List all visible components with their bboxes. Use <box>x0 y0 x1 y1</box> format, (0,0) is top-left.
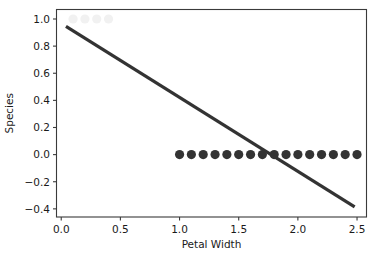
x-tick-label: 2.0 <box>290 223 307 235</box>
x-tick-label: 0.5 <box>112 223 129 235</box>
data-point-marker <box>352 150 361 159</box>
data-point-marker <box>187 150 196 159</box>
x-axis-ticks: 0.00.51.01.52.02.5 <box>53 217 366 235</box>
y-tick-label: 0.4 <box>33 94 50 106</box>
y-tick-label: 0.6 <box>33 67 50 79</box>
x-tick-label: 1.0 <box>171 223 188 235</box>
data-point-marker <box>199 150 208 159</box>
y-tick-label: −0.4 <box>25 203 51 215</box>
data-point-marker <box>210 150 219 159</box>
data-point-marker <box>175 150 184 159</box>
y-tick-label: 0.2 <box>33 121 50 133</box>
y-axis-title: Species <box>3 93 15 133</box>
y-tick-label: 0.0 <box>33 148 50 160</box>
data-point-marker <box>104 14 113 23</box>
data-point-marker <box>234 150 243 159</box>
scatter-plot-canvas: 0.00.51.01.52.02.5 −0.4−0.20.00.20.40.60… <box>0 0 374 253</box>
data-point-marker <box>222 150 231 159</box>
y-tick-label: 0.8 <box>33 40 50 52</box>
x-tick-label: 1.5 <box>230 223 247 235</box>
x-tick-label: 2.5 <box>349 223 366 235</box>
data-point-marker <box>341 150 350 159</box>
chart-figure: 0.00.51.01.52.02.5 −0.4−0.20.00.20.40.60… <box>0 0 374 253</box>
y-axis-ticks: −0.4−0.20.00.20.40.60.81.0 <box>25 13 57 215</box>
data-point-marker <box>80 14 89 23</box>
data-point-marker <box>92 14 101 23</box>
data-point-marker <box>281 150 290 159</box>
data-point-marker <box>246 150 255 159</box>
x-axis-title: Petal Width <box>182 238 242 250</box>
data-point-marker <box>68 14 77 23</box>
data-point-marker <box>329 150 338 159</box>
data-point-marker <box>305 150 314 159</box>
data-point-marker <box>293 150 302 159</box>
y-tick-label: 1.0 <box>33 13 50 25</box>
data-point-marker <box>317 150 326 159</box>
y-tick-label: −0.2 <box>25 176 51 188</box>
x-tick-label: 0.0 <box>53 223 70 235</box>
